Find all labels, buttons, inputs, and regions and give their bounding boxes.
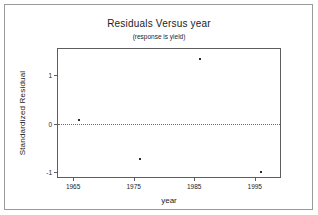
- chart-screenshot: Residuals Versus year (response is yield…: [0, 0, 318, 215]
- x-tick-mark: [194, 177, 195, 181]
- chart-title: Residuals Versus year: [0, 18, 318, 29]
- plot-area: 10-11965197519851995: [57, 48, 281, 178]
- data-point: [139, 158, 141, 160]
- x-tick-mark: [255, 177, 256, 181]
- x-axis-label: year: [57, 196, 281, 205]
- x-tick-label: 1965: [66, 183, 80, 190]
- x-tick-label: 1995: [248, 183, 262, 190]
- y-axis-label: Standardized Residual: [18, 71, 27, 156]
- zero-reference-line: [58, 124, 280, 125]
- x-tick-label: 1975: [126, 183, 140, 190]
- x-tick-mark: [134, 177, 135, 181]
- data-point: [78, 119, 80, 121]
- y-tick-label: 0: [48, 120, 52, 127]
- plot-inner: 10-11965197519851995: [58, 49, 280, 177]
- y-tick-mark: [54, 124, 58, 125]
- x-tick-label: 1985: [187, 183, 201, 190]
- y-tick-label: -1: [46, 168, 52, 175]
- x-tick-mark: [73, 177, 74, 181]
- y-tick-mark: [54, 172, 58, 173]
- chart-subtitle: (response is yield): [0, 33, 318, 40]
- data-point: [199, 58, 201, 60]
- data-point: [260, 171, 262, 173]
- y-tick-label: 1: [48, 72, 52, 79]
- y-tick-mark: [54, 75, 58, 76]
